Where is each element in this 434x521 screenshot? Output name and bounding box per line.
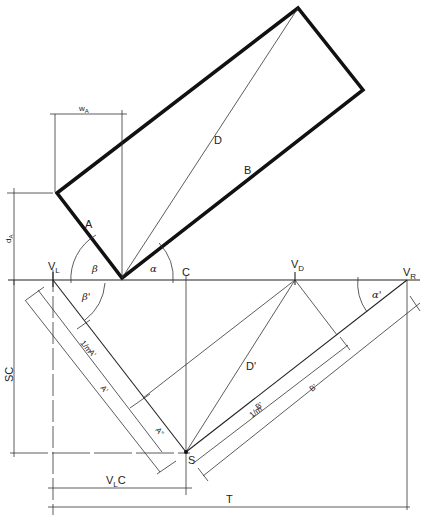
label-s: S bbox=[188, 454, 195, 466]
svg-text:wA: wA bbox=[78, 104, 89, 114]
svg-text:VR: VR bbox=[403, 266, 416, 281]
vd-to-vl-line bbox=[143, 280, 295, 398]
b-tick-bottom bbox=[198, 468, 208, 481]
svg-text:VL: VL bbox=[48, 260, 60, 275]
diagonal-d-prime bbox=[186, 280, 295, 452]
plan-diagonal-d bbox=[122, 8, 298, 278]
svg-text:dA: dA bbox=[4, 235, 14, 243]
svg-text:VLC: VLC bbox=[106, 474, 126, 489]
label-alpha: α bbox=[150, 263, 157, 274]
a-tick-bottom bbox=[157, 461, 176, 474]
label-a: A bbox=[85, 218, 93, 230]
label-c: C bbox=[182, 266, 190, 278]
label-sc: SC bbox=[3, 367, 15, 382]
label-beta: β bbox=[91, 263, 98, 274]
label-t: T bbox=[226, 493, 233, 505]
label-a-prime: A' bbox=[98, 384, 110, 395]
b-tick-mid bbox=[340, 337, 350, 350]
a-prime-dim-line bbox=[38, 290, 162, 452]
a-tick-top bbox=[26, 287, 44, 300]
label-b-prime: B' bbox=[308, 382, 319, 394]
label-a-double-prime: A" bbox=[153, 426, 165, 438]
perspective-diagram: wA dA A B D α β β' α' C VL VD VR SC A' 1… bbox=[0, 0, 434, 521]
s-to-vl bbox=[53, 280, 186, 452]
label-alpha-prime: α' bbox=[372, 289, 382, 300]
a-double-prime-dim-line bbox=[25, 300, 160, 472]
b-tick-top bbox=[410, 296, 420, 311]
alpha-prime-arc bbox=[358, 277, 367, 312]
svg-text:VD: VD bbox=[291, 258, 304, 273]
label-d-prime: D' bbox=[246, 360, 256, 372]
b-prime-scaled-line bbox=[195, 345, 348, 462]
s-to-vr bbox=[186, 280, 407, 452]
label-b: B bbox=[244, 164, 251, 176]
beta-arc bbox=[71, 235, 96, 283]
label-beta-prime: β' bbox=[81, 291, 91, 302]
vd-perpendicular bbox=[295, 280, 337, 335]
label-d: D bbox=[214, 134, 222, 146]
